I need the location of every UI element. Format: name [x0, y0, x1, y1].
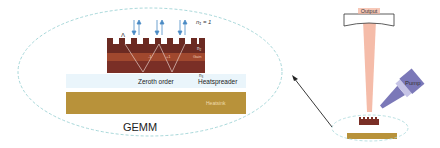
pump-label: Pump — [405, 80, 421, 86]
grating-layer — [107, 44, 205, 53]
zeroth-order-label: Zeroth order — [138, 78, 175, 85]
heatsink-label: Heatsink — [206, 100, 226, 106]
small-device-teeth — [359, 117, 377, 119]
substrate-layer — [107, 60, 205, 73]
n2-label: n₂ — [197, 46, 202, 51]
plus-one-label: +1 — [166, 54, 171, 59]
output-label: Output — [361, 8, 378, 14]
n1-label: n₁ = 1 — [196, 19, 211, 25]
gemm-title: GEMM — [123, 121, 157, 133]
zoom-arrow — [294, 78, 332, 127]
heatspreader-label: Heatspreader — [198, 78, 238, 86]
lambda-label: Λ — [121, 32, 125, 38]
gemm-diagram: n₁ = 1 Λ n₂ Gain -1 +1 n₃ Zeroth order H… — [0, 0, 440, 148]
gain-layer — [107, 52, 205, 61]
laser-beam — [363, 20, 376, 112]
small-heatsink — [347, 133, 397, 139]
vertical-arrows — [132, 20, 187, 35]
zoom-arrow-head — [292, 75, 298, 81]
grating-teeth — [107, 38, 205, 45]
small-device — [359, 119, 379, 125]
pump-assembly — [375, 68, 425, 114]
gain-label: Gain — [193, 54, 201, 59]
